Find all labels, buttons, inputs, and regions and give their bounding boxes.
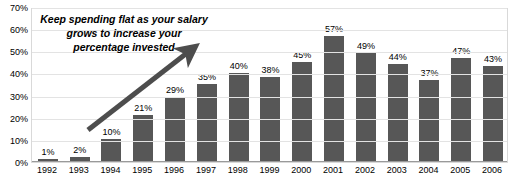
- bar: [229, 73, 249, 161]
- y-axis: 0%10%20%30%40%50%60%70%: [0, 0, 30, 189]
- bar-slot: 49%: [350, 9, 382, 161]
- bar-value-label: 43%: [484, 55, 502, 64]
- gridline: [32, 97, 507, 98]
- x-axis-tick-label: 2002: [355, 166, 375, 175]
- x-axis-tick-label: 2003: [387, 166, 407, 175]
- y-axis-tick-label: 0%: [0, 159, 28, 168]
- bar: [419, 80, 439, 161]
- bar-slot: 37%: [414, 9, 446, 161]
- bar-value-label: 57%: [325, 25, 343, 34]
- bar: [133, 115, 153, 161]
- bar-value-label: 2%: [73, 146, 86, 155]
- x-axis-tick-label: 1992: [37, 166, 57, 175]
- bar-value-label: 44%: [389, 53, 407, 62]
- bar-value-label: 37%: [420, 69, 438, 78]
- bar: [388, 64, 408, 161]
- bar: [101, 139, 121, 161]
- bar: [197, 84, 217, 161]
- y-axis-tick-label: 60%: [0, 26, 28, 35]
- bar-value-label: 10%: [102, 128, 120, 137]
- bar-value-label: 21%: [134, 104, 152, 113]
- bar-value-label: 47%: [452, 47, 470, 56]
- x-axis: 1992199319941995199619971998199920002001…: [31, 166, 508, 186]
- bar-value-label: 49%: [357, 42, 375, 51]
- bar-value-label: 29%: [166, 86, 184, 95]
- bar: [292, 62, 312, 161]
- trend-callout-text: Keep spending flat as your salary grows …: [38, 13, 210, 55]
- x-axis-tick-label: 2006: [482, 166, 502, 175]
- bar: [324, 36, 344, 161]
- bar-slot: 44%: [382, 9, 414, 161]
- x-axis-tick-label: 1998: [228, 166, 248, 175]
- y-axis-tick-label: 70%: [0, 4, 28, 13]
- x-axis-tick-label: 2005: [450, 166, 470, 175]
- gridline: [32, 119, 507, 120]
- bar-slot: 38%: [255, 9, 287, 161]
- x-axis-tick-label: 2000: [291, 166, 311, 175]
- bar: [356, 53, 376, 161]
- bar: [451, 58, 471, 161]
- bar-slot: 47%: [445, 9, 477, 161]
- bar-value-label: 1%: [41, 148, 54, 157]
- bar-value-label: 40%: [230, 62, 248, 71]
- gridline: [32, 141, 507, 142]
- bar-slot: 57%: [318, 9, 350, 161]
- x-axis-tick-label: 1999: [259, 166, 279, 175]
- bar-slot: 45%: [286, 9, 318, 161]
- bar-slot: 40%: [223, 9, 255, 161]
- x-axis-tick-label: 2001: [323, 166, 343, 175]
- y-axis-tick-label: 20%: [0, 114, 28, 123]
- x-axis-tick-label: 1997: [196, 166, 216, 175]
- y-axis-tick-label: 30%: [0, 92, 28, 101]
- x-axis-tick-label: 2004: [418, 166, 438, 175]
- bar: [483, 66, 503, 161]
- y-axis-tick-label: 10%: [0, 136, 28, 145]
- bar: [165, 97, 185, 161]
- bar-chart: 0%10%20%30%40%50%60%70% 1%2%10%21%29%35%…: [0, 0, 510, 189]
- x-axis-tick-label: 1993: [69, 166, 89, 175]
- category-axis-line: [32, 161, 507, 162]
- x-axis-tick-label: 1994: [100, 166, 120, 175]
- y-axis-tick-label: 40%: [0, 70, 28, 79]
- gridline: [32, 8, 507, 9]
- x-axis-tick-label: 1996: [164, 166, 184, 175]
- y-axis-tick-label: 50%: [0, 48, 28, 57]
- bar-slot: 43%: [477, 9, 509, 161]
- x-axis-tick-label: 1995: [132, 166, 152, 175]
- gridline: [32, 74, 507, 75]
